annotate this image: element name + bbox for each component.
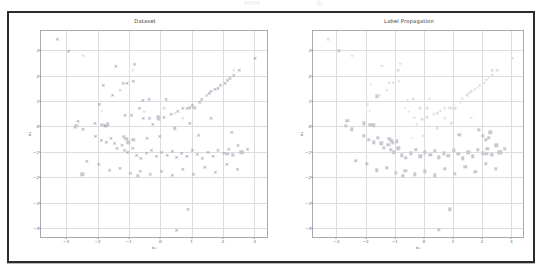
data-point bbox=[382, 146, 385, 149]
data-point bbox=[413, 116, 416, 119]
gridline-horizontal bbox=[313, 203, 523, 204]
x-axis-label: x₁ bbox=[313, 245, 523, 250]
y-tick-mark bbox=[39, 126, 41, 127]
data-point bbox=[400, 154, 403, 157]
data-point bbox=[101, 109, 104, 112]
gridline-vertical bbox=[482, 31, 483, 237]
data-point bbox=[473, 170, 476, 173]
data-point bbox=[372, 140, 375, 143]
data-point bbox=[454, 107, 457, 110]
data-point bbox=[476, 86, 479, 89]
y-tick-mark bbox=[39, 100, 41, 101]
figure-frame: Dataset −3−2−101233210−1−2−3−4x₁x₂ Label… bbox=[7, 11, 535, 263]
x-tick-label: 1 bbox=[190, 239, 193, 244]
gridline-horizontal bbox=[313, 152, 523, 153]
clipped-header-artifact bbox=[0, 0, 543, 9]
data-point bbox=[375, 168, 378, 171]
data-point bbox=[173, 112, 176, 115]
data-point bbox=[165, 152, 170, 157]
data-point bbox=[351, 54, 354, 57]
x-tick-mark bbox=[160, 237, 161, 239]
data-point bbox=[122, 135, 125, 138]
data-point bbox=[380, 141, 383, 144]
data-point bbox=[367, 138, 370, 141]
data-point bbox=[432, 113, 435, 116]
x-axis-label: x₁ bbox=[41, 245, 267, 250]
data-point bbox=[182, 117, 185, 120]
figure-canvas: Dataset −3−2−101233210−1−2−3−4x₁x₂ Label… bbox=[9, 13, 533, 261]
data-point bbox=[426, 107, 429, 110]
x-tick-mark bbox=[97, 237, 98, 239]
data-point bbox=[147, 115, 152, 120]
x-tick-mark bbox=[66, 237, 67, 239]
gridline-vertical bbox=[424, 31, 425, 237]
data-point bbox=[375, 95, 378, 98]
data-point bbox=[200, 156, 205, 161]
data-point bbox=[486, 147, 489, 150]
data-point bbox=[209, 115, 214, 120]
data-point bbox=[121, 80, 126, 85]
data-point bbox=[468, 92, 471, 95]
data-point bbox=[477, 128, 480, 131]
x-tick-mark bbox=[223, 237, 224, 239]
data-point bbox=[134, 153, 139, 158]
data-point bbox=[503, 147, 506, 150]
data-point bbox=[162, 115, 167, 120]
data-point bbox=[168, 112, 173, 117]
data-point bbox=[388, 81, 391, 84]
data-point bbox=[185, 207, 190, 212]
data-point bbox=[416, 123, 419, 126]
data-point bbox=[145, 135, 150, 140]
data-point bbox=[485, 78, 488, 81]
gridline-horizontal bbox=[313, 228, 523, 229]
y-tick-mark bbox=[39, 151, 41, 152]
data-point bbox=[237, 67, 242, 72]
data-point bbox=[236, 143, 241, 148]
data-point bbox=[119, 89, 122, 92]
data-point bbox=[470, 90, 473, 93]
y-tick-mark bbox=[39, 177, 41, 178]
gridline-vertical bbox=[66, 31, 67, 237]
data-point bbox=[419, 155, 422, 158]
data-point bbox=[99, 137, 104, 142]
data-point bbox=[466, 94, 469, 97]
data-point bbox=[224, 161, 229, 166]
data-point bbox=[385, 89, 388, 92]
data-point bbox=[466, 94, 469, 97]
data-point bbox=[76, 118, 81, 123]
y-tick-mark bbox=[311, 50, 313, 51]
data-point bbox=[138, 155, 143, 160]
data-point bbox=[205, 94, 208, 97]
data-point bbox=[125, 137, 128, 140]
y-tick-mark bbox=[39, 228, 41, 229]
data-point bbox=[148, 172, 153, 177]
data-point bbox=[82, 54, 85, 57]
data-point bbox=[395, 139, 398, 142]
x-tick-mark bbox=[254, 237, 255, 239]
data-point bbox=[439, 109, 442, 112]
data-point bbox=[132, 61, 137, 66]
data-point bbox=[107, 168, 112, 173]
gridline-vertical bbox=[192, 31, 193, 237]
data-point bbox=[138, 168, 143, 173]
header-smudge-right bbox=[316, 1, 323, 6]
data-point bbox=[399, 63, 402, 66]
header-smudge-left bbox=[244, 1, 260, 5]
data-point bbox=[487, 76, 490, 79]
x-tick-label: 3 bbox=[253, 239, 256, 244]
data-point bbox=[484, 138, 487, 141]
data-point bbox=[464, 165, 467, 168]
data-point bbox=[458, 133, 461, 136]
gridline-vertical bbox=[453, 31, 454, 237]
data-point bbox=[231, 152, 236, 157]
data-point bbox=[419, 107, 422, 110]
y-tick-mark bbox=[39, 50, 41, 51]
x-tick-mark bbox=[128, 237, 129, 239]
data-point bbox=[489, 131, 492, 134]
data-point bbox=[226, 146, 231, 151]
data-point bbox=[471, 155, 474, 158]
x-tick-mark bbox=[394, 237, 395, 239]
gridline-horizontal bbox=[313, 101, 523, 102]
data-point bbox=[211, 154, 216, 159]
gridline-vertical bbox=[98, 31, 99, 237]
